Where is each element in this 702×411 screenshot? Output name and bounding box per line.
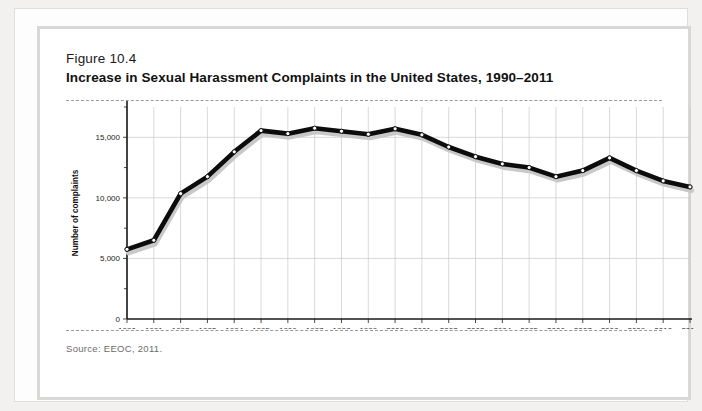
x-tick-label: 1996	[279, 326, 297, 329]
x-axis-tick-labels: 1990199119921993199419951996199719981999…	[118, 326, 694, 329]
y-axis-tick-labels: 05,00010,00015,000	[96, 133, 121, 324]
data-point-marker	[125, 247, 129, 251]
data-point-marker	[339, 129, 343, 133]
x-tick-label: 2003	[467, 326, 485, 329]
data-point-marker	[286, 132, 290, 136]
source-note: Source: EEOC, 2011.	[66, 343, 162, 354]
data-point-marker	[500, 162, 504, 166]
x-tick-label: 2007	[574, 326, 592, 329]
x-tick-label: 1998	[333, 326, 351, 329]
data-point-marker	[554, 175, 558, 179]
chart-plot-area: 05,00010,00015,000 199019911992199319941…	[40, 89, 694, 329]
x-tick-label: 2002	[440, 326, 458, 329]
data-point-marker	[152, 238, 156, 242]
data-point-marker	[581, 169, 585, 173]
figure-title: Increase in Sexual Harassment Complaints…	[66, 70, 553, 85]
x-tick-label: 1999	[359, 326, 377, 329]
figure-number: Figure 10.4	[66, 51, 137, 66]
data-point-marker	[661, 179, 665, 183]
x-tick-label: 2011	[681, 326, 694, 329]
x-tick-label: 1997	[306, 326, 324, 329]
x-tick-label: 1991	[145, 326, 163, 329]
figure-container: Figure 10.4 Increase in Sexual Harassmen…	[37, 26, 691, 400]
chart-tickmarks	[123, 107, 690, 323]
x-tick-label: 2005	[520, 326, 538, 329]
series-line-path	[127, 128, 690, 249]
y-tick-label: 5,000	[100, 254, 121, 263]
x-tick-label: 1992	[172, 326, 190, 329]
x-tick-label: 2009	[627, 326, 645, 329]
series-shadow-path	[129, 132, 692, 253]
data-point-marker	[420, 133, 424, 137]
data-point-marker	[473, 155, 477, 159]
chart-gridlines	[127, 107, 690, 319]
x-tick-label: 1990	[118, 326, 136, 329]
x-tick-label: 2008	[601, 326, 619, 329]
data-point-marker	[688, 185, 692, 189]
x-tick-label: 1994	[225, 326, 243, 329]
data-point-marker	[634, 169, 638, 173]
x-tick-label: 2000	[386, 326, 404, 329]
data-point-marker	[205, 175, 209, 179]
page-frame: Figure 10.4 Increase in Sexual Harassmen…	[14, 8, 688, 402]
divider-bottom	[66, 330, 662, 331]
data-point-marker	[259, 129, 263, 133]
y-tick-label: 0	[116, 315, 121, 324]
x-tick-label: 2001	[413, 326, 431, 329]
data-point-marker	[393, 127, 397, 131]
data-point-marker	[179, 192, 183, 196]
y-tick-label: 10,000	[96, 194, 121, 203]
line-chart: 05,00010,00015,000 199019911992199319941…	[40, 89, 694, 329]
data-point-marker	[232, 150, 236, 154]
x-tick-label: 2006	[547, 326, 565, 329]
data-point-marker	[607, 156, 611, 160]
x-tick-label: 1993	[199, 326, 217, 329]
y-tick-label: 15,000	[96, 133, 121, 142]
data-point-marker	[313, 126, 317, 130]
x-tick-label: 1995	[252, 326, 270, 329]
data-point-marker	[527, 165, 531, 169]
x-tick-label: 2004	[493, 326, 511, 329]
y-axis-title: Number of complaints	[71, 169, 80, 256]
series-data-markers	[125, 126, 692, 251]
page-background: Figure 10.4 Increase in Sexual Harassmen…	[0, 0, 702, 411]
data-point-marker	[366, 132, 370, 136]
data-point-marker	[447, 145, 451, 149]
x-tick-label: 2010	[654, 326, 672, 329]
